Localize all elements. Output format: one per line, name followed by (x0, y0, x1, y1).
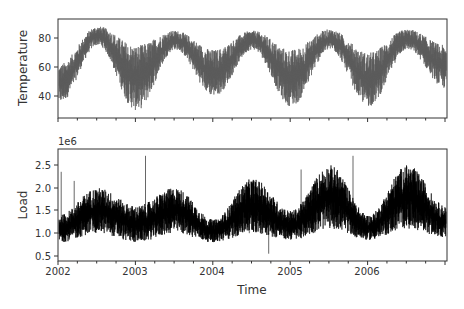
load-ytick-label: 0.5 (35, 251, 51, 262)
temperature-ytick-label: 40 (38, 91, 51, 102)
xtick-label-2002: 2002 (45, 266, 70, 277)
load-ytick-label: 1.0 (35, 228, 51, 239)
load-ytick-label: 2.0 (35, 183, 51, 194)
temperature-line (59, 27, 446, 110)
load-xtick-labels: 2002 2003 2004 2005 2006 (45, 266, 379, 277)
temperature-ytick-label: 80 (38, 33, 51, 44)
temperature-y-axis-label: Temperature (16, 30, 30, 107)
load-offset-label: 1e6 (58, 136, 77, 147)
temperature-y-ticks: 80 60 40 (38, 33, 58, 102)
temperature-panel: 80 60 40 Temperature (16, 19, 447, 122)
load-ytick-label: 2.5 (35, 160, 51, 171)
temperature-ytick-label: 60 (38, 62, 51, 73)
temperature-x-ticks (58, 118, 445, 122)
load-line (59, 156, 446, 254)
xtick-label-2006: 2006 (354, 266, 379, 277)
load-y-axis-label: Load (16, 191, 30, 220)
load-x-ticks (58, 261, 445, 265)
xtick-label-2004: 2004 (199, 266, 224, 277)
load-panel: 1e6 2.5 2.0 1.5 1.0 0.5 2002 2003 2004 2… (16, 136, 447, 297)
figure: 80 60 40 Temperature 1e6 2.5 2.0 1.5 1.0… (0, 0, 464, 309)
load-y-ticks: 2.5 2.0 1.5 1.0 0.5 (35, 160, 58, 262)
load-x-axis-label: Time (236, 283, 266, 297)
xtick-label-2005: 2005 (277, 266, 302, 277)
load-ytick-label: 1.5 (35, 205, 51, 216)
xtick-label-2003: 2003 (122, 266, 147, 277)
